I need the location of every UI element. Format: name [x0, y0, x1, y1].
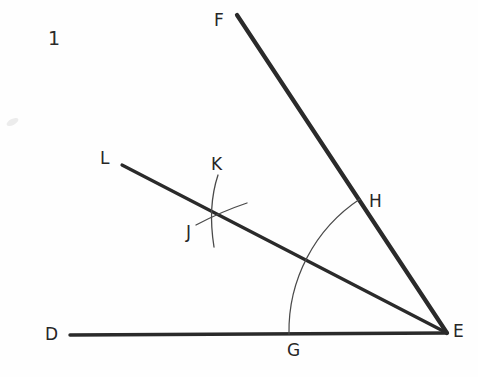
point-label-K: K [211, 156, 222, 173]
point-label-E: E [453, 323, 464, 340]
ray-EL-line [122, 165, 447, 333]
point-label-L: L [100, 150, 109, 167]
point-label-F: F [214, 12, 224, 29]
main-arc-GH-path [289, 199, 360, 334]
figure-number: 1 [48, 29, 60, 48]
point-label-J: J [186, 224, 191, 241]
point-label-D: D [45, 326, 58, 343]
rays-group [70, 15, 447, 335]
point-label-H: H [369, 193, 382, 210]
ray-EF-line [237, 15, 447, 333]
arcs-group [196, 175, 360, 334]
point-label-G: G [287, 342, 300, 359]
geometry-figure [0, 0, 478, 377]
ray-ED-line [70, 333, 447, 335]
figure-canvas: 1 D E F G H J K L [0, 0, 478, 377]
